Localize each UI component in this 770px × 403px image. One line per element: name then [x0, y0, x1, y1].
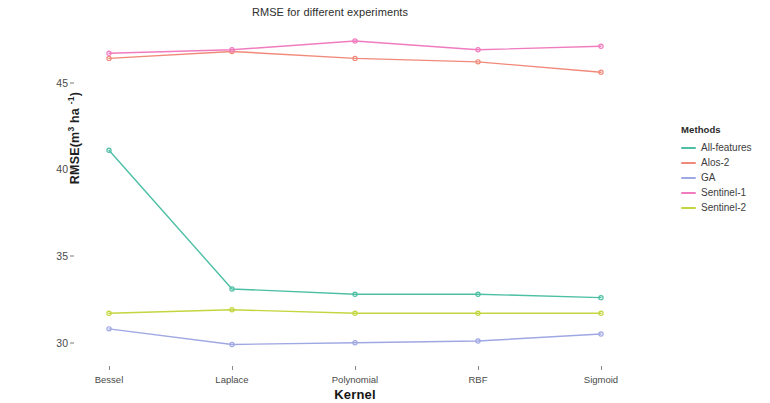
y-axis-title-exponent-neg1: -1	[66, 96, 76, 104]
y-axis-title-exponent-3: 3	[66, 127, 76, 132]
legend-swatch-icon	[681, 162, 696, 164]
legend-label: All-features	[701, 142, 752, 153]
series-alos-2	[107, 49, 603, 74]
y-tick-mark	[70, 342, 74, 343]
plot-area	[85, 22, 625, 367]
legend-label: Sentinel-2	[701, 202, 746, 213]
chart-figure: RMSE for different experiments 30354045 …	[0, 0, 770, 403]
x-tick-label: RBF	[469, 374, 488, 385]
legend-swatch-icon	[681, 207, 696, 209]
legend-label: Alos-2	[701, 157, 729, 168]
legend-item[interactable]: GA	[681, 170, 769, 185]
x-tick-label: Bessel	[95, 374, 124, 385]
legend-title: Methods	[681, 124, 769, 135]
series-all-features	[107, 148, 603, 300]
x-tick-mark	[601, 366, 602, 370]
x-axis-title: Kernel	[85, 387, 625, 402]
plot-lines-svg	[85, 22, 625, 367]
legend-swatch-icon	[681, 177, 696, 179]
y-axis-title-mid: ha	[68, 104, 82, 126]
x-tick-mark	[232, 366, 233, 370]
legend-swatch-icon	[681, 147, 696, 149]
series-sentinel-2	[107, 308, 603, 316]
chart-title: RMSE for different experiments	[0, 6, 660, 18]
y-axis-title-suffix: )	[68, 92, 82, 96]
legend-rows: All-featuresAlos-2GASentinel-1Sentinel-2	[681, 140, 769, 215]
x-tick-label: Sigmoid	[584, 374, 618, 385]
legend-item[interactable]: Sentinel-1	[681, 185, 769, 200]
x-tick-mark	[355, 366, 356, 370]
series-ga	[107, 327, 603, 347]
y-tick-label: 30	[56, 337, 68, 349]
x-tick-label: Laplace	[215, 374, 248, 385]
y-axis-title-prefix: RMSE(m	[68, 132, 82, 185]
x-tick-mark	[478, 366, 479, 370]
series-line	[109, 329, 601, 345]
y-tick-label: 35	[56, 250, 68, 262]
series-sentinel-1	[107, 39, 603, 55]
series-line	[109, 150, 601, 297]
y-tick-mark	[70, 256, 74, 257]
legend: Methods All-featuresAlos-2GASentinel-1Se…	[681, 124, 769, 215]
series-line	[109, 51, 601, 72]
legend-item[interactable]: All-features	[681, 140, 769, 155]
x-tick-label: Polynomial	[332, 374, 378, 385]
legend-label: GA	[701, 172, 715, 183]
legend-swatch-icon	[681, 192, 696, 194]
y-axis-ticks: 30354045	[0, 0, 68, 403]
legend-label: Sentinel-1	[701, 187, 746, 198]
x-tick-mark	[109, 366, 110, 370]
y-axis-title: RMSE(m3 ha -1)	[66, 58, 82, 218]
legend-item[interactable]: Alos-2	[681, 155, 769, 170]
legend-item[interactable]: Sentinel-2	[681, 200, 769, 215]
